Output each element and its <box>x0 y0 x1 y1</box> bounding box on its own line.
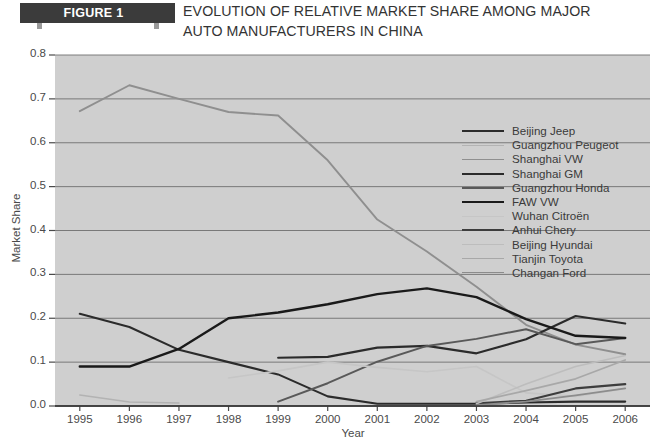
legend-label: Wuhan Citroën <box>512 209 589 223</box>
legend-item[interactable]: Tianjin Toyota <box>462 252 618 266</box>
legend-line-swatch <box>462 173 504 175</box>
legend-item[interactable]: Changan Ford <box>462 266 618 280</box>
y-tick-label: 0.7 <box>6 91 46 103</box>
legend-item[interactable]: Guangzhou Peugeot <box>462 138 618 152</box>
series-line-beijing-jeep <box>80 314 625 404</box>
figure-header: FIGURE 1 EVOLUTION OF RELATIVE MARKET SH… <box>0 0 658 44</box>
legend-line-swatch <box>462 159 504 160</box>
legend-label: Shanghai GM <box>512 167 583 181</box>
page-title-line-1: EVOLUTION OF RELATIVE MARKET SHARE AMONG… <box>183 2 653 22</box>
legend-label: FAW VW <box>512 195 559 209</box>
figure-tab-label: FIGURE 1 <box>20 3 167 23</box>
legend-item[interactable]: Guangzhou Honda <box>462 181 618 195</box>
chart-legend: Beijing JeepGuangzhou PeugeotShanghai VW… <box>462 124 618 280</box>
legend-line-swatch <box>462 272 504 273</box>
y-tick-label: 0.8 <box>6 47 46 59</box>
legend-label: Anhui Chery <box>512 223 576 237</box>
legend-line-swatch <box>462 258 504 259</box>
page-title-line-2: AUTO MANUFACTURERS IN CHINA <box>183 22 653 42</box>
series-line-guangzhou-peugeot <box>80 395 179 403</box>
series-line-shanghai-gm <box>278 316 625 358</box>
y-tick-label: 0.2 <box>6 310 46 322</box>
figure-tab: FIGURE 1 <box>20 3 167 23</box>
legend-label: Tianjin Toyota <box>512 252 583 266</box>
legend-label: Changan Ford <box>512 266 586 280</box>
legend-item[interactable]: Beijing Jeep <box>462 124 618 138</box>
legend-item[interactable]: FAW VW <box>462 195 618 209</box>
series-line-faw-vw <box>80 288 625 366</box>
legend-line-swatch <box>462 201 504 203</box>
legend-label: Shanghai VW <box>512 152 583 166</box>
y-axis-title: Market Share <box>10 183 22 273</box>
legend-line-swatch <box>462 187 504 189</box>
legend-label: Beijing Jeep <box>512 124 575 138</box>
legend-line-swatch <box>462 130 504 132</box>
legend-item[interactable]: Shanghai VW <box>462 152 618 166</box>
legend-label: Beijing Hyundai <box>512 238 593 252</box>
series-line-guangzhou-honda <box>278 329 625 401</box>
legend-item[interactable]: Shanghai GM <box>462 167 618 181</box>
y-tick-label: 0.6 <box>6 135 46 147</box>
page-title: EVOLUTION OF RELATIVE MARKET SHARE AMONG… <box>183 2 653 41</box>
legend-label: Guangzhou Honda <box>512 181 609 195</box>
legend-label: Guangzhou Peugeot <box>512 138 618 152</box>
x-tick-label: 2006 <box>595 413 655 425</box>
legend-item[interactable]: Wuhan Citroën <box>462 209 618 223</box>
legend-item[interactable]: Beijing Hyundai <box>462 238 618 252</box>
y-tick-label: 0.0 <box>6 398 46 410</box>
chart-container: 0.00.10.20.30.40.50.60.70.8 199519961997… <box>0 44 658 445</box>
y-tick-label: 0.1 <box>6 354 46 366</box>
series-line-anhui-chery <box>476 384 625 403</box>
legend-line-swatch <box>462 229 504 231</box>
legend-item[interactable]: Anhui Chery <box>462 223 618 237</box>
legend-line-swatch <box>462 216 504 217</box>
legend-line-swatch <box>462 145 504 146</box>
x-axis-title: Year <box>323 427 383 439</box>
legend-line-swatch <box>462 244 504 245</box>
